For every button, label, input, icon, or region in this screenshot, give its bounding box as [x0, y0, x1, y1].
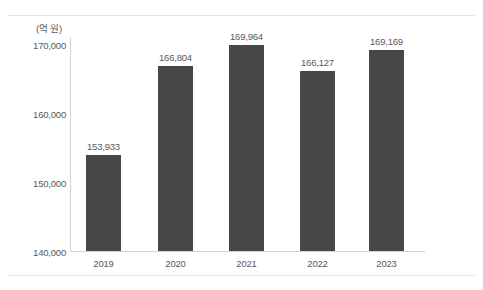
- x-tick-label-2020: 2020: [140, 258, 211, 269]
- x-axis-tick-labels: 2019 2020 2021 2022 2023: [70, 0, 425, 290]
- x-tick-label-2019: 2019: [68, 258, 139, 269]
- x-tick-label-2021: 2021: [211, 258, 282, 269]
- y-tick-label-170000: 170,000: [22, 40, 66, 51]
- x-tick-label-2023: 2023: [351, 258, 422, 269]
- chart-figure: (억 원) 170,000 160,000 150,000 140,000 15…: [0, 0, 483, 290]
- y-tick-label-160000: 160,000: [22, 109, 66, 120]
- y-axis-tick-labels: 170,000 160,000 150,000 140,000: [20, 0, 66, 290]
- y-tick-label-140000: 140,000: [22, 247, 66, 258]
- y-tick-label-150000: 150,000: [22, 178, 66, 189]
- x-tick-label-2022: 2022: [282, 258, 353, 269]
